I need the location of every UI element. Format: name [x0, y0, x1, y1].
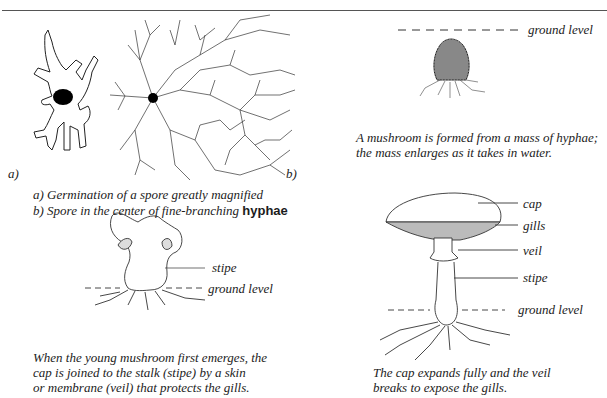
label-ground-level-young: ground level: [208, 281, 273, 297]
label-ground-level-mass: ground level: [528, 22, 593, 38]
label-ground-level-mature: ground level: [518, 302, 583, 318]
young-caption-line-3: or membrane (veil) that protects the gil…: [33, 380, 250, 395]
young-mushroom-illustration: [85, 213, 205, 310]
label-gills: gills: [523, 218, 545, 234]
young-caption-line-1: When the young mushroom first emerges, t…: [33, 350, 267, 365]
label-stipe-mature: stipe: [523, 270, 548, 286]
spore-a: [53, 89, 73, 105]
mass-caption-line-1: A mushroom is formed from a mass of hyph…: [356, 130, 598, 145]
hyphae-mass-illustration: [398, 30, 518, 98]
marker-b: b): [286, 166, 297, 182]
label-stipe-young: stipe: [212, 260, 237, 276]
marker-a: a): [8, 166, 19, 182]
mature-mushroom-illustration: [380, 193, 518, 360]
label-veil: veil: [523, 243, 542, 259]
hyphae-term: hyphae: [242, 203, 288, 218]
mature-caption-line-1: The cap expands fully and the veil: [373, 365, 551, 380]
spore-b: [148, 93, 158, 103]
mass-caption-line-2: the mass enlarges as it takes in water.: [356, 145, 552, 160]
branching-hyphae-illustration: [110, 15, 295, 180]
mature-caption-line-2: breaks to expose the gills.: [373, 380, 507, 395]
spore-caption-line-1: a) Germination of a spore greatly magnif…: [33, 187, 263, 202]
spore-caption-line-2: b) Spore in the center of fine-branching…: [33, 203, 288, 218]
young-caption-line-2: cap is joined to the stalk (stipe) by a …: [33, 365, 246, 380]
label-cap: cap: [523, 196, 542, 212]
